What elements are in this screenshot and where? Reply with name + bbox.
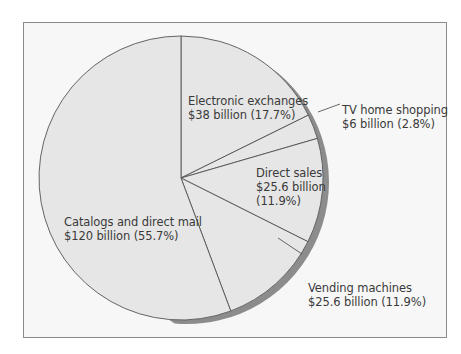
slice-value: $38 billion (17.7%)	[188, 108, 308, 122]
label-vending-machines: Vending machines $25.6 billion (11.9%)	[308, 281, 426, 309]
slice-value: $6 billion (2.8%)	[342, 117, 448, 131]
slice-value: $120 billion (55.7%)	[64, 229, 202, 243]
label-electronic-exchanges: Electronic exchanges $38 billion (17.7%)	[188, 94, 308, 122]
label-catalogs-direct-mail: Catalogs and direct mail $120 billion (5…	[64, 215, 202, 243]
slice-label: Vending machines	[308, 281, 426, 295]
slice-label: Electronic exchanges	[188, 94, 308, 108]
slice-label: TV home shopping	[342, 103, 448, 117]
slice-label: Direct sales	[256, 166, 326, 180]
leader-line	[318, 104, 340, 112]
label-tv-home-shopping: TV home shopping $6 billion (2.8%)	[342, 103, 448, 131]
slice-value: $25.6 billion (11.9%)	[308, 295, 426, 309]
label-direct-sales: Direct sales $25.6 billion (11.9%)	[256, 166, 326, 208]
slice-percent: (11.9%)	[256, 194, 326, 208]
slice-value: $25.6 billion	[256, 180, 326, 194]
slice-label: Catalogs and direct mail	[64, 215, 202, 229]
